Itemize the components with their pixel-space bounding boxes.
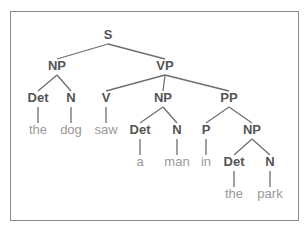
word-leaf: a <box>136 154 144 169</box>
category-node: S <box>104 27 113 42</box>
category-node: N <box>66 90 75 105</box>
category-node: NP <box>48 58 66 73</box>
tree-edge <box>252 139 270 155</box>
tree-edge <box>206 107 229 123</box>
category-node: Det <box>130 122 152 137</box>
tree-edge <box>165 75 229 91</box>
tree-edge <box>38 75 57 91</box>
tree-edge <box>57 75 71 91</box>
tree-edge <box>163 107 177 123</box>
parse-tree: SNPVPDetNVNPPPthedogsawDetNPNPamaninDetN… <box>0 0 307 232</box>
category-node: Det <box>224 154 246 169</box>
word-leaf: in <box>201 154 211 169</box>
category-node: NP <box>243 122 261 137</box>
category-node: V <box>102 90 111 105</box>
tree-edge <box>57 44 108 59</box>
word-leaf: dog <box>60 122 82 137</box>
category-node: N <box>172 122 181 137</box>
category-node: VP <box>156 58 174 73</box>
tree-edge <box>234 139 252 155</box>
word-leaf: man <box>164 154 189 169</box>
word-leaf: the <box>225 186 243 201</box>
tree-edge <box>106 75 165 91</box>
category-node: N <box>265 154 274 169</box>
word-leaf: the <box>29 122 47 137</box>
tree-nodes: SNPVPDetNVNPPPthedogsawDetNPNPamaninDetN… <box>28 27 284 201</box>
word-leaf: park <box>257 186 283 201</box>
category-node: Det <box>28 90 50 105</box>
tree-edge <box>163 75 165 91</box>
category-node: P <box>202 122 211 137</box>
category-node: NP <box>154 90 172 105</box>
tree-edge <box>140 107 163 123</box>
category-node: PP <box>220 90 238 105</box>
tree-edge <box>108 44 165 59</box>
word-leaf: saw <box>94 122 118 137</box>
tree-edge <box>229 107 252 123</box>
